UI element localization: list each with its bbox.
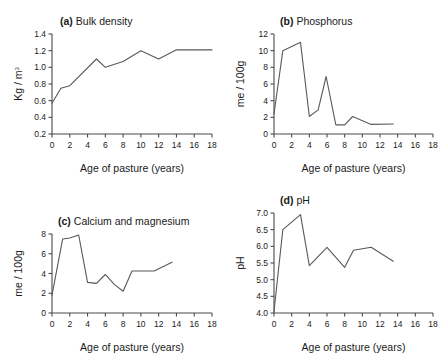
chart-d-series-line — [274, 215, 393, 312]
chart-d-canvas: (d)pH4.04.55.05.56.06.57.002468101214161… — [222, 179, 445, 359]
chart-b-y-tick-label: 2 — [263, 112, 268, 122]
chart-b-y-tick-label: 0 — [263, 129, 268, 139]
four-panel-line-figure: (a)Bulk density0.20.40.60.81.01.21.40246… — [0, 0, 445, 359]
chart-c-x-axis-label: Age of pasture (years) — [80, 341, 184, 353]
chart-a-x-tick-label: 10 — [136, 140, 146, 150]
chart-a-canvas: (a)Bulk density0.20.40.60.81.01.21.40246… — [0, 0, 222, 180]
chart-a-x-tick-label: 12 — [154, 140, 164, 150]
chart-b-x-tick-label: 12 — [375, 140, 385, 150]
chart-d-x-tick-label: 18 — [428, 319, 438, 329]
chart-b-y-tick-label: 4 — [263, 96, 268, 106]
chart-d-y-tick-label: 5.0 — [256, 275, 268, 285]
chart-c-y-tick-label: 8 — [41, 229, 46, 239]
chart-b-y-tick-label: 8 — [263, 62, 268, 72]
chart-d-title: (d)pH — [280, 194, 310, 206]
chart-b-x-tick-label: 18 — [428, 140, 438, 150]
chart-c-x-tick-label: 18 — [207, 319, 217, 329]
chart-c-x-tick-label: 10 — [136, 319, 146, 329]
chart-a-x-tick-label: 14 — [172, 140, 182, 150]
chart-c-canvas: (c)Calcium and magnesium0246802468101214… — [0, 179, 222, 359]
chart-d-x-axis-label: Age of pasture (years) — [302, 341, 406, 353]
chart-c-y-tick-label: 6 — [41, 249, 46, 259]
chart-b-canvas: (b)Phosphorus024681012024681012141618me … — [222, 0, 445, 180]
chart-d-y-tick-label: 6.5 — [256, 225, 268, 235]
chart-panel-b: (b)Phosphorus024681012024681012141618me … — [222, 0, 445, 180]
chart-d-x-tick-label: 0 — [272, 319, 277, 329]
chart-c-y-axis-label: me / 100g — [12, 250, 24, 297]
chart-panel-c: (c)Calcium and magnesium0246802468101214… — [0, 179, 222, 359]
chart-d-x-tick-label: 12 — [375, 319, 385, 329]
chart-panel-d: (d)pH4.04.55.05.56.06.57.002468101214161… — [222, 179, 445, 359]
chart-b-y-tick-label: 6 — [263, 79, 268, 89]
chart-a-y-tick-label: 0.2 — [34, 129, 46, 139]
chart-a-x-tick-label: 2 — [67, 140, 72, 150]
chart-b-x-axis-label: Age of pasture (years) — [302, 162, 406, 174]
chart-b-title: (b)Phosphorus — [280, 15, 352, 27]
chart-b-y-axis-label: me / 100g — [234, 60, 246, 107]
chart-c-x-tick-label: 0 — [50, 319, 55, 329]
chart-a-y-tick-label: 0.4 — [34, 112, 46, 122]
chart-b-x-tick-label: 16 — [411, 140, 421, 150]
chart-b-x-tick-label: 10 — [358, 140, 368, 150]
chart-b-x-tick-label: 4 — [307, 140, 312, 150]
chart-a-x-tick-label: 0 — [50, 140, 55, 150]
chart-b-x-tick-label: 8 — [342, 140, 347, 150]
chart-c-title: (c)Calcium and magnesium — [58, 215, 190, 227]
chart-c-y-tick-label: 2 — [41, 288, 46, 298]
chart-a-x-tick-label: 16 — [189, 140, 199, 150]
chart-c-x-tick-label: 6 — [103, 319, 108, 329]
chart-a-series-line — [52, 50, 212, 103]
chart-b-x-tick-label: 2 — [289, 140, 294, 150]
chart-c-x-tick-label: 12 — [154, 319, 164, 329]
chart-d-x-tick-label: 4 — [307, 319, 312, 329]
chart-a-x-tick-label: 6 — [103, 140, 108, 150]
chart-a-y-tick-label: 0.8 — [34, 79, 46, 89]
chart-a-y-tick-label: 1.2 — [34, 46, 46, 56]
chart-c-x-tick-label: 14 — [172, 319, 182, 329]
chart-a-title: (a)Bulk density — [60, 15, 133, 27]
chart-d-y-tick-label: 4.0 — [256, 308, 268, 318]
chart-c-x-tick-label: 4 — [85, 319, 90, 329]
chart-a-x-axis-label: Age of pasture (years) — [80, 162, 184, 174]
chart-a-y-tick-label: 1.0 — [34, 62, 46, 72]
chart-c-y-tick-label: 0 — [41, 308, 46, 318]
chart-d-x-tick-label: 8 — [342, 319, 347, 329]
chart-c-x-tick-label: 2 — [67, 319, 72, 329]
chart-a-x-tick-label: 18 — [207, 140, 217, 150]
chart-b-y-tick-label: 10 — [259, 46, 269, 56]
chart-d-x-tick-label: 2 — [289, 319, 294, 329]
chart-panel-a: (a)Bulk density0.20.40.60.81.01.21.40246… — [0, 0, 222, 180]
chart-d-x-tick-label: 14 — [393, 319, 403, 329]
chart-a-y-axis-label: Kg / m3 — [12, 67, 24, 101]
chart-d-y-tick-label: 7.0 — [256, 208, 268, 218]
chart-d-x-tick-label: 6 — [325, 319, 330, 329]
chart-b-series-line — [274, 42, 393, 125]
chart-c-x-tick-label: 16 — [189, 319, 199, 329]
chart-c-series-line — [52, 235, 172, 295]
chart-d-x-tick-label: 10 — [358, 319, 368, 329]
chart-b-x-tick-label: 6 — [325, 140, 330, 150]
chart-d-y-axis-label: pH — [234, 256, 246, 269]
chart-a-y-tick-label: 1.4 — [34, 29, 46, 39]
chart-a-x-tick-label: 8 — [121, 140, 126, 150]
chart-b-y-tick-label: 12 — [259, 29, 269, 39]
chart-d-y-tick-label: 4.5 — [256, 291, 268, 301]
chart-a-x-tick-label: 4 — [85, 140, 90, 150]
chart-c-y-tick-label: 4 — [41, 269, 46, 279]
chart-c-x-tick-label: 8 — [121, 319, 126, 329]
chart-b-x-tick-label: 0 — [272, 140, 277, 150]
chart-b-x-tick-label: 14 — [393, 140, 403, 150]
chart-d-y-tick-label: 6.0 — [256, 241, 268, 251]
chart-a-y-tick-label: 0.6 — [34, 96, 46, 106]
chart-d-y-tick-label: 5.5 — [256, 258, 268, 268]
chart-d-x-tick-label: 16 — [411, 319, 421, 329]
